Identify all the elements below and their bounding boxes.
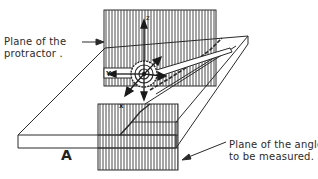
protractor-plane-lower [98, 104, 178, 170]
protractor-leader-arrow [82, 39, 104, 45]
y-axis-label: Y [105, 70, 112, 78]
angle-plane-label-line2: to be measured. [229, 151, 318, 163]
protractor-plane-label: Plane of the protractor . [4, 36, 66, 60]
protractor-plane-label-line2: protractor . [4, 48, 66, 60]
angle-leader-arrow [182, 142, 226, 160]
protractor-plane-label-line1: Plane of the [4, 36, 66, 48]
angle-plane-label-line1: Plane of the angle [229, 139, 318, 151]
figure-letter: A [61, 149, 72, 161]
z-axis-label: z [146, 14, 150, 22]
angle-plane-label: Plane of the angle to be measured. [229, 139, 318, 163]
x-axis-label: x [119, 102, 124, 110]
